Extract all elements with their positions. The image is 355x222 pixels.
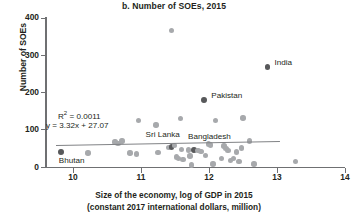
scatter-point bbox=[153, 122, 158, 127]
country-label-sri-lanka: Sri Lanka bbox=[146, 130, 180, 140]
scatter-point-highlighted bbox=[265, 64, 271, 70]
scatter-point bbox=[127, 150, 132, 155]
y-tick-mark bbox=[41, 167, 46, 168]
x-tick-label: 13 bbox=[262, 173, 292, 181]
scatter-point bbox=[187, 153, 192, 158]
scatter-point bbox=[203, 153, 208, 158]
x-tick-label: 12 bbox=[194, 173, 224, 181]
scatter-point bbox=[155, 150, 160, 155]
y-tick-label: 100 bbox=[11, 125, 39, 133]
x-axis-title-line1: Size of the economy, log of GDP in 2015 bbox=[0, 190, 348, 202]
x-tick-label: 10 bbox=[58, 173, 88, 181]
scatter-point bbox=[134, 151, 139, 156]
scatter-point bbox=[236, 159, 241, 164]
y-tick-label: 200 bbox=[11, 88, 39, 96]
x-axis-title-line2: (constant 2017 international dollars, mi… bbox=[0, 202, 348, 214]
scatter-point bbox=[239, 145, 244, 150]
y-tick-mark bbox=[41, 55, 46, 56]
x-axis-title: Size of the economy, log of GDP in 2015 … bbox=[0, 190, 348, 213]
x-tick-label: 11 bbox=[126, 173, 156, 181]
y-tick-mark bbox=[41, 92, 46, 93]
y-tick-label: 0 bbox=[11, 163, 39, 171]
country-label-bangladesh: Bangladesh bbox=[188, 132, 231, 142]
x-axis-line bbox=[45, 167, 345, 168]
y-tick-label: 400 bbox=[11, 13, 39, 21]
country-label-bhutan: Bhutan bbox=[59, 156, 85, 166]
regression-equation-annotation: y = 3.32x + 27.07 bbox=[46, 120, 109, 131]
scatter-point bbox=[234, 149, 239, 154]
scatter-point bbox=[293, 159, 298, 164]
country-label-pakistan: Pakistan bbox=[211, 91, 242, 101]
scatter-point bbox=[240, 115, 245, 120]
y-tick-mark bbox=[41, 129, 46, 130]
scatter-point bbox=[210, 161, 215, 166]
scatter-point bbox=[178, 116, 183, 121]
scatter-point bbox=[251, 161, 256, 166]
scatter-point bbox=[180, 157, 185, 162]
scatter-point bbox=[213, 118, 218, 123]
scatter-point bbox=[85, 150, 90, 155]
y-tick-mark bbox=[41, 18, 46, 19]
scatter-point-highlighted bbox=[201, 97, 207, 103]
scatter-point-highlighted bbox=[58, 149, 64, 155]
scatter-point bbox=[219, 156, 224, 161]
scatter-point bbox=[189, 162, 194, 167]
scatter-point bbox=[179, 147, 184, 152]
country-label-india: India bbox=[274, 58, 292, 68]
scatter-point bbox=[136, 118, 141, 123]
x-tick-label: 14 bbox=[330, 173, 355, 181]
scatter-point bbox=[225, 148, 230, 153]
scatter-point bbox=[169, 28, 174, 33]
y-tick-label: 300 bbox=[11, 51, 39, 59]
chart-title: b. Number of SOEs, 2015 bbox=[0, 1, 348, 11]
